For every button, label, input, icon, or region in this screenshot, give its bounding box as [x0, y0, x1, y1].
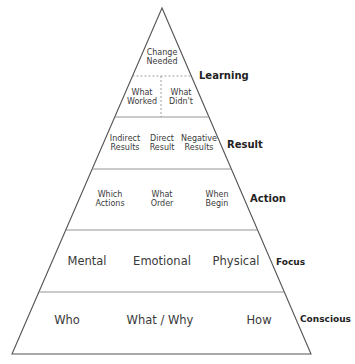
- cell-which-actions: Which Actions: [95, 190, 124, 208]
- cell-line: Indirect: [110, 134, 140, 143]
- cell-line: Results: [181, 143, 217, 152]
- cell-line: Order: [151, 199, 174, 208]
- cell-line: What: [169, 88, 193, 97]
- cell-line: Which: [95, 190, 124, 199]
- cell-physical: Physical: [213, 255, 260, 268]
- cell-line: Didn't: [169, 97, 193, 106]
- cell-line: Needed: [147, 57, 178, 66]
- cell-line: Emotional: [133, 255, 191, 268]
- cell-what-order: What Order: [151, 190, 174, 208]
- cell-indirect-results: Indirect Results: [110, 134, 140, 152]
- cell-when-begin: When Begin: [206, 190, 229, 208]
- level-label-focus: Focus: [276, 257, 305, 267]
- cell-emotional: Emotional: [133, 255, 191, 268]
- cell-line: Negative: [181, 134, 217, 143]
- cell-mental: Mental: [67, 255, 106, 268]
- cell-line: What / Why: [127, 314, 194, 327]
- cell-line: Who: [54, 314, 80, 327]
- cell-direct-result: Direct Result: [150, 134, 175, 152]
- cell-negative-results: Negative Results: [181, 134, 217, 152]
- cell-line: Direct: [150, 134, 175, 143]
- level-label-action: Action: [250, 193, 286, 204]
- cell-line: Result: [150, 143, 175, 152]
- cell-line: Physical: [213, 255, 260, 268]
- cell-who: Who: [54, 314, 80, 327]
- level-label-result: Result: [227, 139, 263, 150]
- cell-line: Mental: [67, 255, 106, 268]
- cell-how: How: [246, 314, 271, 327]
- cell-line: Worked: [127, 97, 157, 106]
- cell-line: Change: [147, 48, 178, 57]
- cell-change-needed: Change Needed: [147, 48, 178, 66]
- cell-line: What: [151, 190, 174, 199]
- level-label-conscious: Conscious: [300, 314, 351, 324]
- cell-what-worked: What Worked: [127, 88, 157, 106]
- cell-line: How: [246, 314, 271, 327]
- cell-line: Results: [110, 143, 140, 152]
- cell-line: What: [127, 88, 157, 97]
- cell-line: When: [206, 190, 229, 199]
- cell-line: Actions: [95, 199, 124, 208]
- level-label-learning: Learning: [199, 70, 249, 81]
- cell-what-didnt: What Didn't: [169, 88, 193, 106]
- cell-what-why: What / Why: [127, 314, 194, 327]
- cell-line: Begin: [206, 199, 229, 208]
